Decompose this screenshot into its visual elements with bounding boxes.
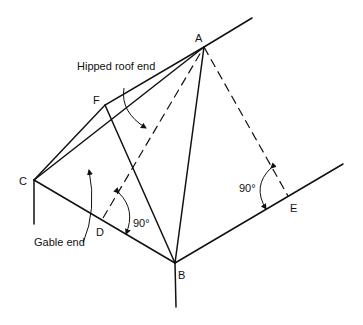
right-angle-arc-d xyxy=(119,193,130,234)
diagram-canvas: A B C D E F Hipped roof end Gable end 90… xyxy=(0,0,363,325)
point-label-f: F xyxy=(93,94,100,106)
gable-end-pointer-arrow xyxy=(83,170,92,243)
hipped-roof-end-label: Hipped roof end xyxy=(77,60,155,72)
angle-label-e: 90° xyxy=(239,182,256,194)
point-label-e: E xyxy=(290,202,297,214)
point-label-b: B xyxy=(178,269,185,281)
line-c-b xyxy=(34,180,175,263)
gable-end-label: Gable end xyxy=(34,236,85,248)
eaves-line-right xyxy=(175,164,343,263)
point-label-c: C xyxy=(19,175,27,187)
line-a-b xyxy=(175,47,204,263)
angle-label-d: 90° xyxy=(133,217,150,229)
point-label-d: D xyxy=(96,226,104,238)
right-angle-arc-e xyxy=(260,168,271,209)
dashed-line-d-a xyxy=(103,47,204,218)
point-label-a: A xyxy=(195,32,203,44)
hipped-end-pointer-arrow xyxy=(123,88,146,128)
ridge-line xyxy=(204,18,252,47)
dashed-line-a-e xyxy=(204,47,288,196)
wall-line-b xyxy=(175,263,176,307)
line-f-b xyxy=(105,105,175,263)
